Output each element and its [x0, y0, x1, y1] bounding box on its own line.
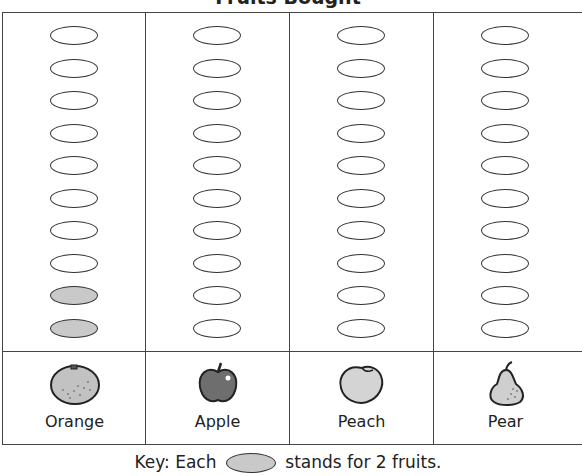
legend-key: Key: Each stands for 2 fruits. — [0, 452, 576, 473]
pictograph-oval — [337, 221, 385, 240]
pictograph-oval-shaded — [50, 319, 98, 338]
pictograph-oval — [193, 254, 241, 273]
oval-stack — [434, 26, 577, 351]
fruit-label: Apple — [146, 412, 289, 431]
pictograph-oval — [50, 221, 98, 240]
fruit-label: Pear — [434, 412, 577, 431]
pictograph-oval — [481, 254, 529, 273]
pictograph-oval — [481, 124, 529, 143]
oval-stack — [290, 26, 433, 351]
oval-stack — [146, 26, 289, 351]
key-suffix: stands for 2 fruits. — [285, 452, 441, 472]
fruit-label: Peach — [290, 412, 433, 431]
column-peach: Peach — [289, 13, 433, 444]
pictograph-oval — [50, 59, 98, 78]
pictograph-oval — [193, 59, 241, 78]
fruit-cell-orange: Orange — [3, 352, 146, 446]
pictograph-oval — [50, 26, 98, 45]
pictograph-oval — [481, 319, 529, 338]
pictograph-oval — [481, 59, 529, 78]
pictograph-oval — [481, 286, 529, 305]
fruit-cell-apple: Apple — [146, 352, 289, 446]
pictograph-oval — [481, 91, 529, 110]
fruit-label: Orange — [3, 412, 146, 431]
pictograph-oval — [481, 189, 529, 208]
pictograph-oval — [50, 156, 98, 175]
pictograph-oval — [50, 254, 98, 273]
pictograph-oval — [481, 26, 529, 45]
chart-title: Fruits Bought — [0, 0, 576, 8]
pictograph-oval — [193, 124, 241, 143]
peach-icon — [335, 360, 389, 406]
pictograph-oval — [337, 189, 385, 208]
column-apple: Apple — [145, 13, 289, 444]
oval-stack — [3, 26, 146, 351]
pictograph-oval — [337, 124, 385, 143]
pictograph-oval — [193, 91, 241, 110]
pictograph-oval — [481, 221, 529, 240]
pictograph-oval — [337, 156, 385, 175]
apple-icon — [193, 360, 243, 406]
pictograph-oval — [50, 189, 98, 208]
pictograph-oval — [193, 286, 241, 305]
pictograph-oval — [337, 286, 385, 305]
fruit-cell-peach: Peach — [290, 352, 433, 446]
pictograph-oval — [193, 189, 241, 208]
pictograph-oval-shaded — [50, 286, 98, 305]
pictograph-oval — [193, 156, 241, 175]
pear-icon — [484, 360, 528, 408]
pictograph-oval — [337, 319, 385, 338]
pictograph-oval — [193, 319, 241, 338]
pictograph-table: Orange Apple Peach — [2, 12, 582, 445]
column-orange: Orange — [3, 13, 146, 444]
pictograph-oval — [337, 91, 385, 110]
pictograph-oval — [337, 254, 385, 273]
pictograph-oval — [193, 221, 241, 240]
pictograph-oval — [193, 26, 241, 45]
pictograph-oval — [337, 59, 385, 78]
fruit-cell-pear: Pear — [434, 352, 577, 446]
pictograph-oval — [50, 91, 98, 110]
pictograph-oval — [337, 26, 385, 45]
pictograph-oval — [50, 124, 98, 143]
key-prefix: Key: Each — [135, 452, 217, 472]
column-pear: Pear — [433, 13, 577, 444]
pictograph-oval — [481, 156, 529, 175]
orange-icon — [48, 360, 102, 406]
key-oval-icon — [226, 453, 276, 473]
